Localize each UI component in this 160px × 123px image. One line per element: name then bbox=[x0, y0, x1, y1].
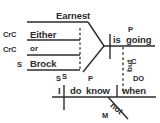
sentence-diagram: Earnest CrC Either CrC or S Brock S P is… bbox=[0, 0, 160, 123]
tag-s-clause-2: S bbox=[56, 75, 61, 83]
verb-is: is bbox=[113, 35, 121, 45]
brace-lower-arm bbox=[83, 46, 104, 72]
word-either: Either bbox=[30, 30, 56, 40]
tag-s-brock: S bbox=[17, 61, 22, 69]
tag-s-brace: S bbox=[62, 73, 67, 81]
tag-crc-or: CrC bbox=[3, 46, 16, 54]
object-when: when bbox=[122, 86, 146, 96]
verb-do: do bbox=[70, 86, 81, 96]
tag-p-clause-2: P bbox=[88, 75, 93, 83]
verb-know: know bbox=[86, 86, 110, 96]
subject-i: I bbox=[58, 86, 61, 96]
noun-earnest: Earnest bbox=[56, 11, 90, 21]
word-brock: Brock bbox=[30, 59, 56, 69]
tag-m-modifier: M bbox=[102, 112, 108, 120]
tag-crc-either: CrC bbox=[3, 31, 16, 39]
verb-going: going bbox=[126, 35, 151, 45]
tag-c-conjunction: C bbox=[131, 58, 136, 66]
brace-upper-arm bbox=[88, 22, 104, 46]
tag-p-clause-1: P bbox=[128, 26, 133, 34]
word-or: or bbox=[30, 45, 38, 53]
tag-do-clause-2: DO bbox=[133, 75, 144, 83]
